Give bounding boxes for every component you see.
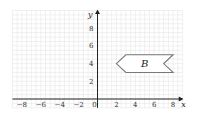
coordinate-grid: −8−6−4−2024682468xyB — [0, 0, 203, 119]
y-tick-label: 8 — [89, 25, 93, 33]
x-tick-label: 6 — [152, 101, 157, 109]
x-tick-label: −8 — [17, 101, 27, 109]
y-tick-label: 6 — [89, 42, 94, 50]
x-tick-label: −2 — [73, 101, 83, 109]
x-tick-label: 2 — [114, 101, 118, 109]
y-tick-label: 4 — [89, 60, 94, 68]
x-tick-label: −6 — [36, 101, 47, 109]
x-axis-label: x — [181, 100, 186, 109]
x-tick-label: 4 — [133, 101, 138, 109]
x-tick-label: −4 — [55, 101, 66, 109]
x-tick-label: 0 — [92, 101, 96, 109]
x-tick-label: 8 — [171, 101, 175, 109]
y-tick-label: 2 — [89, 78, 93, 86]
y-axis-label: y — [87, 10, 93, 19]
shape-label: B — [140, 58, 148, 69]
